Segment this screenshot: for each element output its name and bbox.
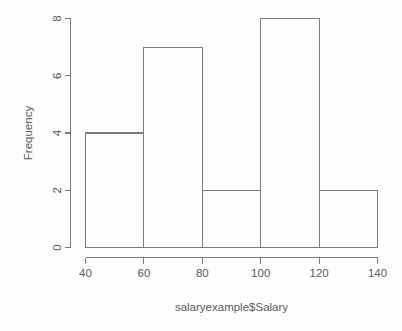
y-axis: 0 2 4 6 8 Frequency	[22, 15, 71, 250]
y-tick-label-0: 0	[51, 244, 63, 250]
histogram-bar-40-60	[86, 133, 144, 248]
y-axis-title: Frequency	[22, 106, 34, 161]
histogram-bar-100-120	[261, 19, 319, 248]
y-tick-label-8: 8	[51, 15, 63, 21]
histogram-bar-60-80	[144, 47, 202, 247]
x-axis: 40 60 80 100 120 140 salaryexample$Salar…	[79, 258, 387, 314]
x-tick-label-80: 80	[196, 267, 209, 279]
x-tick-label-40: 40	[79, 267, 92, 279]
y-tick-label-4: 4	[51, 129, 63, 136]
histogram-bar-120-140	[319, 190, 377, 247]
y-tick-label-2: 2	[51, 187, 63, 193]
histogram-plot-area: 0 2 4 6 8 Frequency 40 60	[0, 0, 402, 331]
x-tick-label-120: 120	[310, 267, 329, 279]
x-tick-label-60: 60	[138, 267, 151, 279]
histogram-chart: 0 2 4 6 8 Frequency 40 60	[0, 0, 402, 331]
histogram-bars	[86, 19, 378, 248]
y-tick-label-6: 6	[51, 73, 63, 79]
x-axis-title: salaryexample$Salary	[175, 301, 288, 313]
x-tick-label-140: 140	[368, 267, 387, 279]
histogram-bar-80-100	[202, 190, 260, 247]
x-tick-label-100: 100	[251, 267, 270, 279]
